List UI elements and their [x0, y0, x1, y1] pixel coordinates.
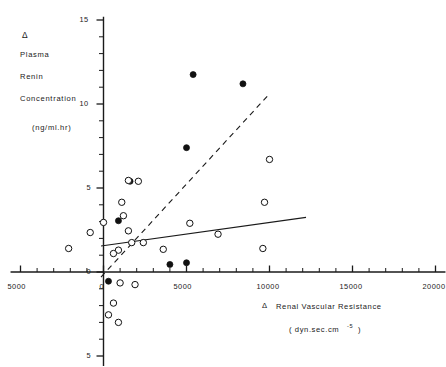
y-axis-title-line-plasma: Plasma [20, 50, 50, 59]
data-point-open [125, 177, 131, 183]
y-axis-units-label: (ng/ml.hr) [32, 123, 72, 132]
y-tick-label: 15 [80, 15, 89, 24]
data-point-open [129, 239, 135, 245]
data-point-open [266, 156, 272, 162]
data-point-open [87, 229, 93, 235]
x-tick-label: 10000 [257, 282, 280, 291]
y-axis-delta-symbol: Δ [22, 30, 28, 40]
x-tick-label: 15000 [340, 282, 363, 291]
data-point-filled [184, 260, 190, 266]
data-point-open [119, 199, 125, 205]
data-point-filled [105, 278, 111, 284]
axes-group [11, 17, 446, 366]
data-point-open [100, 219, 106, 225]
data-point-open [110, 250, 116, 256]
y-tick-label: 5 [87, 351, 92, 360]
data-point-open [132, 281, 138, 287]
x-axis-units-prefix: ( dyn.sec.cm [289, 325, 339, 334]
data-point-open [120, 213, 126, 219]
x-tick-label: 20000 [423, 282, 446, 291]
data-point-open [105, 312, 111, 318]
y-axis-title-line-renin: Renin [20, 72, 43, 81]
x-axis-units-suffix: ) [358, 325, 361, 334]
y-tick-label: 0 [87, 267, 92, 276]
data-point-open [125, 228, 131, 234]
x-tick-label: 5000 [8, 282, 26, 291]
data-point-filled [240, 81, 246, 87]
data-point-filled [190, 72, 196, 78]
data-point-open [260, 245, 266, 251]
x-axis-title: Renal Vascular Resistance [276, 302, 382, 311]
dashed-fit [101, 96, 268, 277]
data-point-open [140, 239, 146, 245]
y-tick-label: 10 [80, 99, 89, 108]
data-point-open [135, 178, 141, 184]
y-axis-title-line-concentration: Concentration [20, 94, 76, 103]
x-tick-label: 0 [100, 282, 105, 291]
data-point-open [110, 300, 116, 306]
fit-lines-group [101, 96, 306, 277]
data-point-filled [184, 145, 190, 151]
scatter-plot-svg [0, 0, 446, 367]
data-points-group [65, 72, 272, 326]
data-point-open [115, 319, 121, 325]
data-point-open [117, 280, 123, 286]
data-point-open [261, 199, 267, 205]
y-tick-label: 5 [87, 183, 92, 192]
data-point-filled [115, 218, 121, 224]
data-point-open [215, 231, 221, 237]
figure-canvas: Δ Plasma Renin Concentration (ng/ml.hr) … [0, 0, 446, 367]
x-tick-label: 5000 [174, 282, 192, 291]
data-point-open [65, 245, 71, 251]
data-point-filled [167, 261, 173, 267]
x-axis-units-exponent: -5 [347, 323, 353, 329]
x-axis-delta-symbol: Δ [262, 301, 268, 310]
data-point-open [187, 220, 193, 226]
data-point-open [160, 246, 166, 252]
